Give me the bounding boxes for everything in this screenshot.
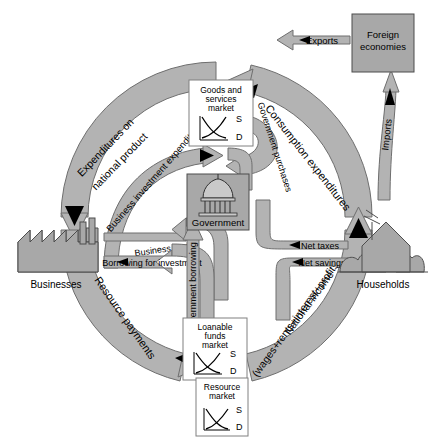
actor-government[interactable]: Government bbox=[187, 174, 249, 230]
market-label-resource-2: market bbox=[209, 391, 236, 401]
market-label-goods-3: market bbox=[208, 103, 235, 113]
market-label-loanable-3: market bbox=[202, 340, 229, 350]
market-supply-label-resource: S bbox=[236, 405, 242, 415]
market-supply-label-loanable: S bbox=[230, 349, 236, 359]
flow-net-taxes: Net taxes bbox=[256, 200, 348, 251]
circular-flow-diagram: Expenditures on national product Consump… bbox=[0, 0, 433, 439]
market-loanable-funds[interactable]: Loanable funds market S D bbox=[183, 318, 247, 380]
flow-label-exports: Exports bbox=[306, 35, 338, 46]
market-goods-and-services[interactable]: Goods and services market S D bbox=[189, 80, 253, 146]
market-resource[interactable]: Resource market S D bbox=[196, 378, 248, 436]
actor-label-foreign-2: economies bbox=[360, 41, 406, 52]
actor-label-government: Government bbox=[192, 217, 245, 228]
flow-label-net-taxes: Net taxes bbox=[301, 241, 340, 251]
flow-imports: Imports bbox=[378, 70, 399, 200]
market-supply-label-goods: S bbox=[236, 114, 242, 124]
actor-foreign-economies[interactable]: Foreign economies bbox=[352, 14, 414, 72]
actor-label-households: Households bbox=[357, 279, 410, 290]
actor-label-foreign-1: Foreign bbox=[367, 29, 399, 40]
actor-label-businesses: Businesses bbox=[30, 279, 81, 290]
market-demand-label-goods: D bbox=[236, 132, 243, 142]
flow-exports: Exports bbox=[277, 30, 350, 50]
market-demand-label-loanable: D bbox=[230, 366, 237, 376]
market-demand-label-resource: D bbox=[236, 422, 243, 432]
diagram-canvas: Expenditures on national product Consump… bbox=[0, 0, 433, 439]
factory-icon bbox=[18, 218, 98, 272]
flow-label-net-savings: Net savings bbox=[298, 258, 346, 268]
